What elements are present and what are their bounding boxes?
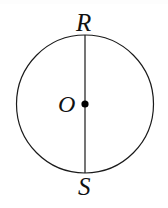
point-label-o: O: [58, 92, 75, 116]
point-label-r: R: [76, 10, 91, 35]
point-label-s: S: [78, 174, 91, 199]
center-point-dot: [81, 100, 88, 107]
geometry-figure: R O S: [0, 0, 168, 208]
